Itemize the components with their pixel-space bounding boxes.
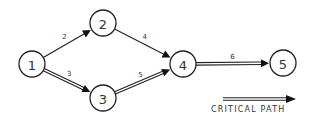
critical-path-legend-arrow-icon	[223, 95, 296, 103]
edge-1-3: 3	[44, 70, 91, 92]
network-diagram: 23456 12345 CRITICAL PATH	[0, 0, 312, 123]
node-3: 3	[90, 85, 116, 111]
node-5: 5	[270, 50, 296, 76]
edge-2-4: 4	[115, 29, 171, 58]
node-label: 5	[279, 57, 287, 72]
edge-duration-label: 2	[62, 33, 66, 41]
edge-duration-label: 4	[143, 33, 148, 41]
edge-duration-label: 5	[138, 71, 142, 79]
edge-duration-label: 3	[67, 70, 71, 78]
node-4: 4	[170, 51, 196, 77]
edges-layer: 23456	[43, 29, 269, 93]
edge-4-5: 6	[196, 53, 269, 68]
legend: CRITICAL PATH	[211, 95, 296, 114]
legend-label: CRITICAL PATH	[211, 105, 285, 114]
node-2: 2	[90, 10, 116, 36]
nodes-layer: 12345	[19, 10, 296, 111]
edge-duration-label: 6	[230, 53, 235, 61]
node-label: 1	[28, 58, 36, 73]
node-1: 1	[19, 51, 45, 77]
node-label: 2	[99, 17, 107, 32]
edge-1-2: 2	[43, 30, 91, 57]
arrowhead-icon	[261, 59, 269, 67]
edge-3-4: 5	[115, 69, 170, 93]
node-label: 3	[99, 92, 107, 107]
node-label: 4	[179, 58, 187, 73]
arrowhead-icon	[82, 30, 91, 37]
